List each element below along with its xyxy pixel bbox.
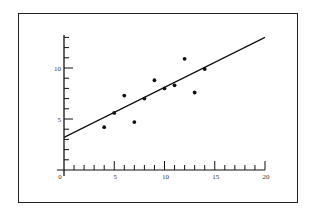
x-tick-label: 20 xyxy=(263,173,271,181)
data-point xyxy=(132,120,136,124)
scatter-chart: 05101520510 xyxy=(0,0,311,213)
data-point xyxy=(122,94,126,98)
data-point xyxy=(173,83,177,87)
data-point xyxy=(102,125,106,129)
data-point xyxy=(153,78,157,82)
x-tick-label: 5 xyxy=(114,173,118,181)
data-point xyxy=(193,91,197,95)
x-tick-label: 10 xyxy=(162,173,170,181)
data-point xyxy=(112,111,116,115)
x-tick-label: 15 xyxy=(212,173,220,181)
data-point xyxy=(143,97,147,101)
x-tick-label: 0 xyxy=(58,173,62,181)
y-tick-label: 5 xyxy=(58,116,62,124)
data-point xyxy=(203,67,207,71)
data-point xyxy=(163,87,167,91)
y-tick-label: 10 xyxy=(54,65,62,73)
data-point xyxy=(183,57,187,61)
